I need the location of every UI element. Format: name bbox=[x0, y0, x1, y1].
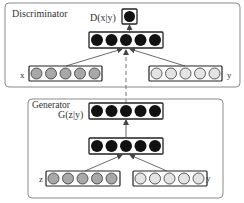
discriminator-y-label: y bbox=[227, 70, 232, 80]
discriminator-output-label: D(x|y) bbox=[90, 12, 116, 24]
discriminator-x-label: x bbox=[20, 70, 25, 80]
generator-y-label: y bbox=[206, 173, 211, 183]
discriminator-output-node bbox=[124, 11, 135, 22]
arrow-x-to-d-hidden bbox=[66, 49, 122, 66]
arrow-z-to-g-hidden bbox=[85, 155, 122, 171]
generator-block: Generator G(z|y) z y bbox=[28, 99, 223, 198]
arrow-y-to-g-hidden bbox=[130, 155, 167, 171]
generator-z-label: z bbox=[39, 174, 43, 184]
discriminator-label: Discriminator bbox=[12, 8, 68, 19]
discriminator-block: Discriminator D(x|y) x y bbox=[5, 3, 240, 87]
arrow-y-to-d-hidden bbox=[130, 49, 185, 66]
generator-output-label: G(z|y) bbox=[58, 109, 83, 121]
cgan-diagram: Discriminator D(x|y) x y Generator bbox=[0, 0, 244, 203]
